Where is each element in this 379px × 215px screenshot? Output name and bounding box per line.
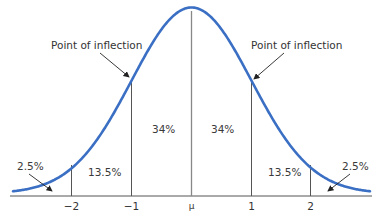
tick-minus-2: −2 [64,200,79,212]
region-left-tail-label: 2.5% [17,160,44,172]
tick-plus-1: 1 [248,200,255,212]
normal-distribution-diagram: Point of inflection Point of inflection … [0,0,379,215]
region-left-34-label: 34% [152,123,175,135]
tick-mean: μ [189,201,195,211]
left-inflection-arrow [100,53,129,77]
region-right-34-label: 34% [211,123,234,135]
region-right-tail-label: 2.5% [342,160,369,172]
region-left-13-label: 13.5% [88,166,121,178]
right-inflection-arrow [254,53,284,79]
right-inflection-label: Point of inflection [251,39,342,51]
tick-minus-1: −1 [124,200,139,212]
region-right-13-label: 13.5% [268,166,301,178]
tick-plus-2: 2 [307,200,314,212]
left-inflection-label: Point of inflection [51,39,142,51]
